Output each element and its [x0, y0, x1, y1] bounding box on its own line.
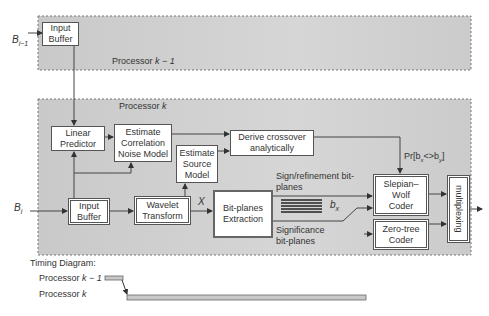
timing-bar-curr [127, 295, 366, 300]
linear-predictor-block: Linear Predictor [51, 126, 105, 151]
derive-crossover-block: Derive crossover analytically [230, 130, 314, 156]
input-buffer-bottom-block: Input Buffer [68, 198, 110, 225]
processor-curr-label: Processor k [119, 101, 167, 112]
zero-tree-block: Zero-tree Coder [373, 219, 429, 250]
bx-label: bx [330, 199, 339, 214]
estimate-correlation-block: Estimate Correlation Noise Model [114, 124, 172, 162]
slepian-wolf-block: Slepian– Wolf Coder [373, 174, 429, 216]
crossover-probability-label: Pr[bx<>by] [404, 151, 445, 166]
processor-prev-label: Processor k − 1 [112, 56, 175, 67]
sign-refinement-label: Sign/refinement bit-planes [276, 171, 366, 193]
input-buffer-top-block: Input Buffer [42, 22, 79, 46]
significance-label: Significance bit-planes [276, 225, 338, 247]
multiplexing-block: multiplexing [447, 175, 470, 243]
timing-row-prev-label: Processor k − 1 [39, 273, 102, 284]
timing-row-curr-label: Processor k [39, 289, 87, 300]
estimate-source-block: Estimate Source Model [176, 145, 218, 183]
input-label-curr: Bi [14, 202, 22, 217]
wavelet-transform-block: Wavelet Transform [134, 196, 191, 225]
timing-title: Timing Diagram: [30, 258, 96, 269]
bitplanes-extraction-block: Bit-planes Extraction [213, 190, 273, 238]
x-label: X [198, 196, 205, 207]
processor-prev-panel [38, 16, 471, 70]
input-label-prev: Bi−1 [12, 34, 28, 49]
timing-bar-prev [105, 276, 123, 280]
